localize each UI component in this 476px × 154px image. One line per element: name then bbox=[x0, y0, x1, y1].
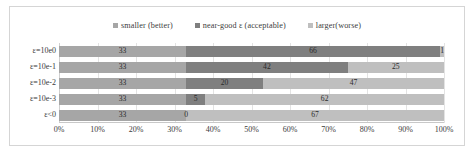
y-axis-label: ε=10e-3 bbox=[10, 91, 56, 107]
y-axis-label: ε=10e-1 bbox=[10, 59, 56, 75]
x-tick-label: 40% bbox=[206, 125, 221, 134]
plot-area: 336613342253320473356233067 bbox=[59, 43, 444, 123]
x-tick-label: 90% bbox=[398, 125, 413, 134]
bar-segment-label: 5 bbox=[194, 95, 198, 103]
bar-segment[interactable]: 62 bbox=[205, 94, 444, 105]
x-axis-tick-labels: 0%10%20%30%40%50%60%70%80%90%100% bbox=[59, 125, 444, 139]
x-tick-label: 20% bbox=[129, 125, 144, 134]
bar-segment-label: 33 bbox=[119, 111, 127, 119]
bar-segment-label: 1 bbox=[440, 47, 444, 55]
bar-row: 33661 bbox=[59, 43, 444, 59]
bar-row: 334225 bbox=[59, 59, 444, 75]
bar-row: 33067 bbox=[59, 107, 444, 123]
bar-segment[interactable]: 5 bbox=[186, 94, 205, 105]
bar-segment[interactable]: 33 bbox=[59, 78, 186, 89]
bar-segment-label: 67 bbox=[311, 111, 319, 119]
bar-segment[interactable]: 1 bbox=[440, 46, 444, 57]
bar-segment[interactable]: 33 bbox=[59, 110, 186, 121]
x-tick-label: 10% bbox=[90, 125, 105, 134]
legend-swatch-smaller-better bbox=[113, 23, 118, 28]
bar-segment-label: 25 bbox=[392, 63, 400, 71]
x-tick-label: 0% bbox=[54, 125, 65, 134]
bar-row: 33562 bbox=[59, 91, 444, 107]
bar-segment-label: 33 bbox=[119, 47, 127, 55]
bar-segment-label: 62 bbox=[321, 95, 329, 103]
chart-frame: smaller (better) near-good ε (acceptable… bbox=[9, 6, 465, 146]
bar-segment[interactable]: 20 bbox=[186, 78, 263, 89]
bar-segment[interactable]: 33 bbox=[59, 94, 186, 105]
x-tick-label: 50% bbox=[244, 125, 259, 134]
chart-legend: smaller (better) near-good ε (acceptable… bbox=[10, 21, 464, 30]
bar-segment[interactable]: 33 bbox=[59, 62, 186, 73]
bar-segment[interactable]: 67 bbox=[186, 110, 444, 121]
legend-label-near-good: near-good ε (acceptable) bbox=[203, 21, 286, 30]
legend-item-near-good[interactable]: near-good ε (acceptable) bbox=[195, 21, 286, 30]
y-axis-label: ε=10e-2 bbox=[10, 75, 56, 91]
bar-segment[interactable]: 42 bbox=[186, 62, 348, 73]
bar-segment-label: 33 bbox=[119, 95, 127, 103]
x-tick-label: 100% bbox=[435, 125, 454, 134]
bar-row: 332047 bbox=[59, 75, 444, 91]
legend-item-larger-worse[interactable]: larger(worse) bbox=[308, 21, 361, 30]
legend-swatch-larger-worse bbox=[308, 23, 313, 28]
bar-segment-label: 0 bbox=[184, 111, 188, 119]
bar-segment-label: 66 bbox=[309, 47, 317, 55]
bar-segment[interactable]: 25 bbox=[348, 62, 444, 73]
x-tick-label: 30% bbox=[167, 125, 182, 134]
legend-label-smaller-better: smaller (better) bbox=[121, 21, 173, 30]
bar-segment[interactable]: 47 bbox=[263, 78, 444, 89]
bar-segment-label: 33 bbox=[119, 79, 127, 87]
bar-segment-label: 42 bbox=[263, 63, 271, 71]
legend-swatch-near-good bbox=[195, 23, 200, 28]
bar-segment-label: 33 bbox=[119, 63, 127, 71]
y-axis-label: ε=10e0 bbox=[10, 43, 56, 59]
bar-segment-label: 47 bbox=[350, 79, 358, 87]
y-axis-label: ε<0 bbox=[10, 107, 56, 123]
legend-item-smaller-better[interactable]: smaller (better) bbox=[113, 21, 173, 30]
legend-label-larger-worse: larger(worse) bbox=[316, 21, 361, 30]
bar-segment[interactable]: 33 bbox=[59, 46, 186, 57]
x-tick-label: 70% bbox=[321, 125, 336, 134]
x-tick-label: 60% bbox=[283, 125, 298, 134]
bar-segment-label: 20 bbox=[221, 79, 229, 87]
bar-segment[interactable]: 66 bbox=[186, 46, 440, 57]
y-axis-category-labels: ε=10e0ε=10e-1ε=10e-2ε=10e-3ε<0 bbox=[10, 43, 56, 123]
x-tick-label: 80% bbox=[360, 125, 375, 134]
